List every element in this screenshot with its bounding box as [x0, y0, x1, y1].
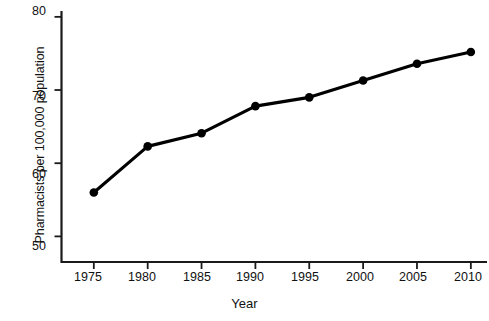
axis-lines	[62, 11, 488, 263]
data-markers	[90, 48, 476, 197]
data-point	[305, 93, 314, 102]
plot-area	[0, 0, 489, 321]
data-point	[90, 188, 99, 197]
data-point	[413, 59, 422, 68]
data-point	[251, 102, 260, 111]
data-point	[197, 129, 206, 138]
data-point	[143, 142, 152, 151]
line-chart: Pharmacists per 100,000 population Year …	[0, 0, 489, 321]
data-point	[467, 48, 476, 57]
data-line	[94, 52, 471, 193]
data-point	[359, 76, 368, 85]
